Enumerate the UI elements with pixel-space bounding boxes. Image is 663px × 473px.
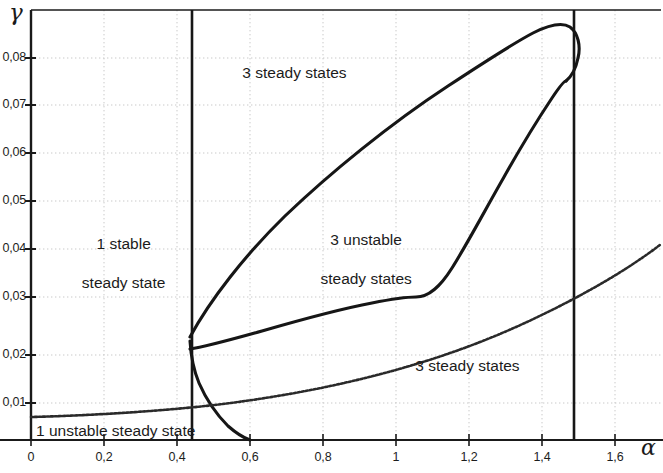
x-tick-label-0-2: 0,2 [84, 450, 124, 464]
region-label-middle-line2: steady states [320, 270, 411, 287]
region-label-middle-line1: 3 unstable [330, 231, 402, 248]
y-tick-label-0-07: 0,07 [0, 97, 26, 111]
x-tick-label-1: 1 [376, 450, 416, 464]
y-tick-label-0-06: 0,06 [0, 145, 26, 159]
region-label-left: 1 stable steady state [55, 215, 175, 312]
x-tick-label-0: 0 [11, 450, 51, 464]
region-label-left-line1: 1 stable [96, 235, 150, 252]
x-tick-label-1-4: 1,4 [522, 450, 562, 464]
x-axis-label: α [641, 437, 656, 459]
region-label-left-line2: steady state [82, 274, 166, 291]
region-label-lower: 3 steady states [385, 356, 550, 375]
y-axis-label: γ [9, 1, 23, 24]
bifurcation-diagram-figure: γ α 0,08 0,07 0,06 0,05 0,04 0,03 0,02 0… [0, 0, 663, 473]
y-tick-label-0-01: 0,01 [0, 395, 26, 409]
region-label-middle: 3 unstable steady states [285, 211, 430, 308]
x-tick-label-1-6: 1,6 [595, 450, 635, 464]
x-tick-label-1-2: 1,2 [449, 450, 489, 464]
x-tick-label-0-4: 0,4 [157, 450, 197, 464]
y-tick-label-0-08: 0,08 [0, 50, 26, 64]
y-tick-label-0-04: 0,04 [0, 241, 26, 255]
region-label-bottom: 1 unstable steady state [36, 421, 236, 440]
region-label-top: 3 steady states [212, 63, 377, 82]
y-tick-label-0-02: 0,02 [0, 347, 26, 361]
y-tick-label-0-03: 0,03 [0, 289, 26, 303]
y-tick-label-0-05: 0,05 [0, 193, 26, 207]
x-tick-label-0-6: 0,6 [230, 450, 270, 464]
x-tick-label-0-8: 0,8 [303, 450, 343, 464]
